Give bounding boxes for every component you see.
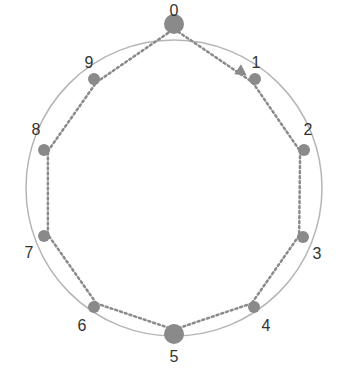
node-8	[38, 144, 50, 156]
node-1	[249, 73, 261, 85]
node-label-1: 1	[252, 54, 261, 71]
node-label-2: 2	[304, 121, 313, 138]
node-7	[38, 230, 50, 242]
node-label-3: 3	[313, 245, 322, 262]
path-segment	[48, 235, 97, 304]
path-segment	[96, 303, 174, 329]
path-segment	[48, 82, 97, 151]
node-2	[298, 144, 310, 156]
node-label-6: 6	[78, 317, 87, 334]
ring-diagram: 0123456789	[0, 0, 346, 386]
ring-circle	[26, 40, 322, 336]
node-label-5: 5	[170, 348, 179, 365]
path-segment	[253, 82, 301, 151]
node-label-9: 9	[85, 54, 94, 71]
node-label-8: 8	[32, 121, 41, 138]
diagram-svg: 0123456789	[0, 0, 346, 386]
path-segment	[252, 236, 300, 304]
node-4	[248, 301, 260, 313]
node-9	[88, 73, 100, 85]
node-label-7: 7	[25, 244, 34, 261]
node-label-4: 4	[262, 317, 271, 334]
path-segment	[299, 151, 300, 235]
node-5	[164, 324, 184, 344]
node-3	[297, 231, 309, 243]
node-6	[88, 301, 100, 313]
path-segment	[174, 303, 252, 329]
node-label-0: 0	[170, 2, 179, 19]
